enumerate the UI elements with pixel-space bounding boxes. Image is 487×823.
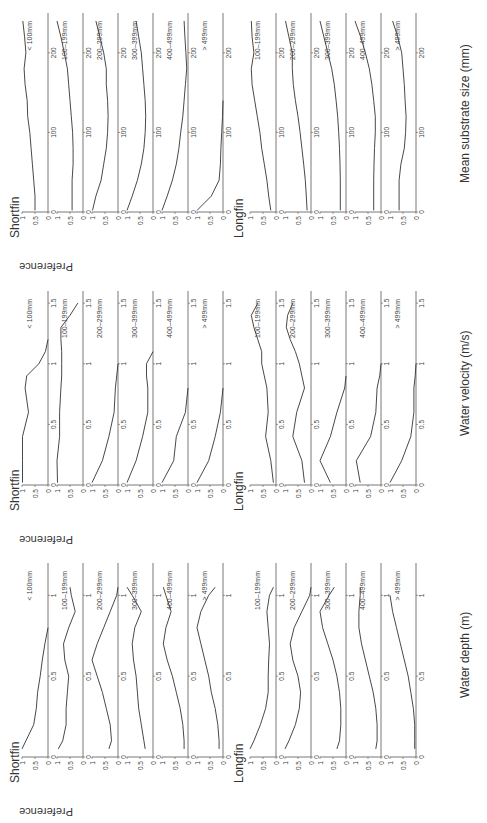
svg-text:0: 0 <box>273 489 280 493</box>
subplot--499mm: 00.5100.511.5> 499mm <box>194 291 233 498</box>
svg-text:200: 200 <box>225 47 232 58</box>
svg-text:200–299mm: 200–299mm <box>289 21 296 60</box>
svg-text:400–499mm: 400–499mm <box>166 21 173 60</box>
svg-text:0: 0 <box>150 761 157 765</box>
svg-text:200–299mm: 200–299mm <box>289 571 296 610</box>
svg-text:0: 0 <box>155 755 162 759</box>
svg-text:0: 0 <box>185 216 192 220</box>
svg-text:0: 0 <box>413 761 420 765</box>
y-axis-label-substrate: Preference <box>19 261 73 273</box>
svg-text:0.5: 0.5 <box>313 671 320 680</box>
svg-text:0: 0 <box>418 755 425 759</box>
subplot-100-199mm: 00.5100.511.5100–199mm <box>54 291 93 498</box>
svg-text:0.5: 0.5 <box>295 489 302 498</box>
svg-text:0: 0 <box>50 483 57 487</box>
svg-text:0: 0 <box>155 210 162 214</box>
svg-text:1: 1 <box>120 362 127 366</box>
subplot-400-499mm: 00.5100.511.5400–499mm <box>352 291 391 498</box>
svg-text:0: 0 <box>120 755 127 759</box>
svg-text:200–299mm: 200–299mm <box>96 21 103 60</box>
svg-text:0: 0 <box>150 216 157 220</box>
svg-text:0: 0 <box>278 755 285 759</box>
longfin-substrate-panels: 00.510100200100–199mm00.510100200200–299… <box>250 3 450 238</box>
svg-text:< 100mm: < 100mm <box>26 21 33 51</box>
subplot--499mm: 00.510100200> 499mm <box>387 13 426 225</box>
svg-text:100: 100 <box>190 127 197 138</box>
svg-text:0: 0 <box>115 216 122 220</box>
svg-text:< 100mm: < 100mm <box>26 571 33 601</box>
svg-text:> 499mm: > 499mm <box>201 571 208 601</box>
y-axis-label-depth: Preference <box>19 806 73 818</box>
svg-text:0.5: 0.5 <box>67 216 74 225</box>
svg-text:0: 0 <box>418 483 425 487</box>
svg-text:> 499mm: > 499mm <box>201 299 208 329</box>
svg-text:300–399mm: 300–399mm <box>324 21 331 60</box>
svg-text:0: 0 <box>155 483 162 487</box>
svg-text:0: 0 <box>313 210 320 214</box>
svg-text:0.5: 0.5 <box>67 489 74 498</box>
svg-text:1: 1 <box>194 761 201 765</box>
svg-text:1: 1 <box>50 593 57 597</box>
subplot-400-499mm: 00.5100.51400–499mm <box>352 563 391 770</box>
svg-text:0.5: 0.5 <box>67 761 74 770</box>
svg-text:0.5: 0.5 <box>172 489 179 498</box>
svg-text:0.5: 0.5 <box>190 419 197 428</box>
svg-text:0: 0 <box>185 761 192 765</box>
svg-text:1: 1 <box>278 362 285 366</box>
svg-text:1.5: 1.5 <box>225 298 232 307</box>
subplot-100-199mm: 00.510100200100–199mm <box>54 13 93 225</box>
svg-text:0: 0 <box>378 489 385 493</box>
svg-text:200–299mm: 200–299mm <box>96 571 103 610</box>
svg-text:200: 200 <box>418 47 425 58</box>
svg-text:0: 0 <box>225 210 232 214</box>
svg-text:1: 1 <box>159 489 166 493</box>
svg-text:0: 0 <box>185 489 192 493</box>
svg-text:0.5: 0.5 <box>155 419 162 428</box>
subplot-300-399mm: 00.5100.511.5300–399mm <box>124 291 163 498</box>
svg-text:100: 100 <box>418 127 425 138</box>
rotated-figure: Shortfin Longfin Water depth (m) Prefere… <box>0 0 487 823</box>
svg-text:0: 0 <box>383 483 390 487</box>
svg-text:200: 200 <box>50 47 57 58</box>
svg-text:1.5: 1.5 <box>313 298 320 307</box>
svg-text:0: 0 <box>378 761 385 765</box>
subplot-300-399mm: 00.5100.51300–399mm <box>317 563 356 770</box>
svg-text:300–399mm: 300–399mm <box>131 21 138 60</box>
svg-text:1: 1 <box>418 593 425 597</box>
svg-text:300–399mm: 300–399mm <box>131 571 138 610</box>
svg-text:1: 1 <box>155 362 162 366</box>
svg-text:200: 200 <box>85 47 92 58</box>
svg-text:1.5: 1.5 <box>278 298 285 307</box>
svg-text:0.5: 0.5 <box>225 671 232 680</box>
svg-text:0: 0 <box>278 483 285 487</box>
subplot-100-199mm: 00.5100.51100–199mm <box>54 563 93 770</box>
svg-text:100: 100 <box>383 127 390 138</box>
svg-text:1: 1 <box>19 489 26 493</box>
svg-text:0.5: 0.5 <box>155 671 162 680</box>
svg-text:0: 0 <box>85 483 92 487</box>
subplot-200-299mm: 00.5100.511.5200–299mm <box>89 291 128 498</box>
svg-text:1: 1 <box>19 216 26 220</box>
svg-text:0.5: 0.5 <box>313 419 320 428</box>
svg-text:200–299mm: 200–299mm <box>96 299 103 338</box>
svg-text:1: 1 <box>247 216 254 220</box>
svg-text:0.5: 0.5 <box>295 761 302 770</box>
svg-text:0.5: 0.5 <box>225 419 232 428</box>
svg-text:1: 1 <box>352 761 359 765</box>
subplot-400-499mm: 00.510100200400–499mm <box>352 13 391 225</box>
subplot-300-399mm: 00.510100200300–399mm <box>317 13 356 225</box>
y-axis-label-velocity: Preference <box>19 534 73 546</box>
svg-text:200: 200 <box>383 47 390 58</box>
svg-text:1: 1 <box>352 489 359 493</box>
svg-text:0.5: 0.5 <box>137 489 144 498</box>
svg-text:0: 0 <box>383 755 390 759</box>
shortfin-depth-panels: 00.5100.51< 100mm00.5100.51100–199mm00.5… <box>22 553 222 783</box>
svg-text:1: 1 <box>194 489 201 493</box>
svg-text:0.5: 0.5 <box>400 489 407 498</box>
svg-text:0: 0 <box>418 210 425 214</box>
svg-text:300–399mm: 300–399mm <box>324 299 331 338</box>
svg-text:1.5: 1.5 <box>50 298 57 307</box>
svg-text:1: 1 <box>282 216 289 220</box>
svg-text:0: 0 <box>45 761 52 765</box>
x-axis-label-substrate: Mean substrate size (mm) <box>458 44 472 183</box>
